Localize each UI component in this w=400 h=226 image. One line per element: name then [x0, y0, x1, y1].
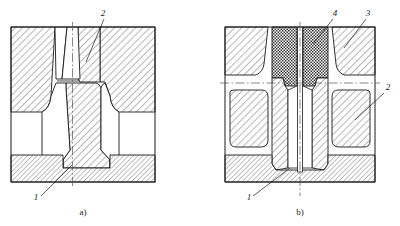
callout-label-3-b: 3: [365, 8, 371, 18]
punch-texture-right-b: [303, 27, 328, 86]
mid-left-block-b: [230, 90, 268, 147]
die-upper-right-block-b: [332, 27, 375, 75]
die-upper-left-block-a: [11, 27, 55, 112]
callout-label-2-a: 2: [101, 8, 106, 18]
caption-a: a): [80, 207, 87, 217]
callout-label-1-a: 1: [34, 192, 39, 202]
sleeve-right-b: [312, 78, 328, 170]
die-upper-left-block-b: [225, 27, 268, 75]
caption-b: b): [296, 207, 304, 217]
sleeve-left-b: [272, 78, 288, 170]
callout-label-2-b: 2: [386, 82, 391, 92]
callout-label-1-b: 1: [247, 192, 252, 202]
mid-right-block-b: [332, 90, 370, 147]
technical-cross-section-figure: 2 1 a): [0, 0, 400, 226]
punch-texture-left-b: [272, 27, 297, 86]
callout-label-4-b: 4: [333, 8, 338, 18]
